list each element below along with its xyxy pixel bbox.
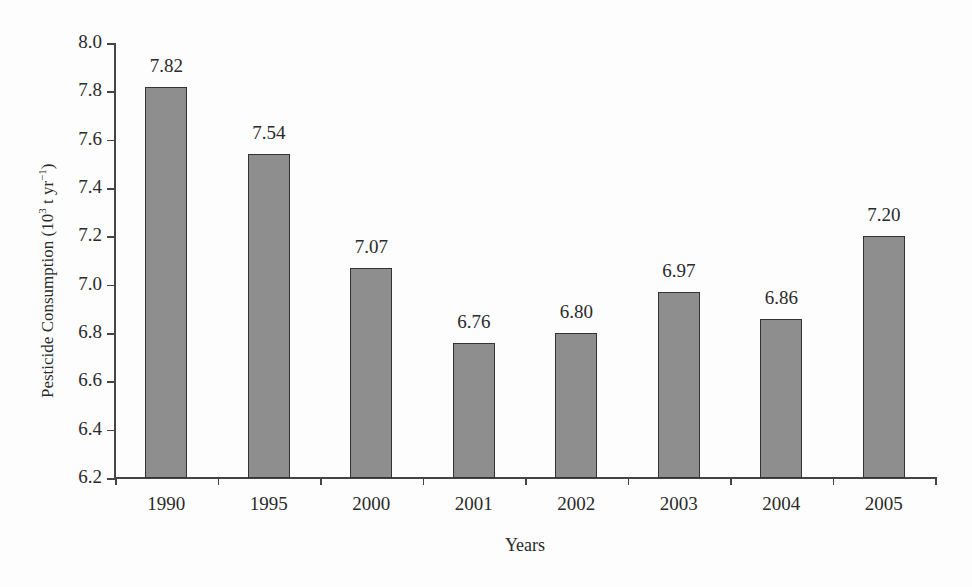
y-title-sup2: −1 xyxy=(36,169,48,181)
bar xyxy=(555,333,597,478)
bar-value-label: 6.86 xyxy=(741,287,821,309)
bar-value-label: 7.07 xyxy=(331,236,411,258)
y-title-main: Pesticide Consumption (10 xyxy=(38,214,57,398)
y-tick-mark xyxy=(107,43,115,45)
bar xyxy=(145,87,187,479)
bar-value-label: 7.54 xyxy=(229,122,309,144)
y-tick-mark xyxy=(107,91,115,93)
bar xyxy=(658,292,700,478)
x-tick-mark xyxy=(525,477,527,485)
bar xyxy=(350,268,392,478)
bar-value-label: 6.80 xyxy=(536,301,616,323)
bar-value-label: 7.82 xyxy=(126,55,206,77)
y-tick-label: 6.2 xyxy=(42,466,102,488)
x-tick-label: 1995 xyxy=(229,493,309,515)
x-tick-mark xyxy=(628,477,630,485)
y-tick-mark xyxy=(107,478,115,480)
y-tick-label: 7.8 xyxy=(42,79,102,101)
bar xyxy=(760,319,802,479)
bar xyxy=(863,236,905,478)
x-tick-label: 2000 xyxy=(331,493,411,515)
y-title-mid: t yr xyxy=(38,181,57,208)
x-tick-mark xyxy=(218,477,220,485)
x-tick-mark xyxy=(423,477,425,485)
x-tick-mark xyxy=(320,477,322,485)
y-title-sup1: 3 xyxy=(36,208,48,214)
y-tick-label: 6.4 xyxy=(42,418,102,440)
y-tick-mark xyxy=(107,236,115,238)
y-tick-mark xyxy=(107,381,115,383)
x-tick-label: 2003 xyxy=(639,493,719,515)
y-tick-mark xyxy=(107,285,115,287)
y-axis-title: Pesticide Consumption (103 t yr−1) xyxy=(36,164,58,398)
bar-value-label: 6.97 xyxy=(639,260,719,282)
bar-value-label: 7.20 xyxy=(844,204,924,226)
x-tick-label: 1990 xyxy=(126,493,206,515)
x-axis-title: Years xyxy=(465,535,585,556)
bar xyxy=(248,154,290,478)
y-tick-mark xyxy=(107,188,115,190)
y-axis-line xyxy=(114,43,116,479)
y-tick-mark xyxy=(107,140,115,142)
y-tick-label: 7.6 xyxy=(42,128,102,150)
y-tick-mark xyxy=(107,430,115,432)
x-tick-label: 2002 xyxy=(536,493,616,515)
y-title-end: ) xyxy=(38,164,57,170)
bar-chart: 6.26.46.66.87.07.27.47.67.88.0 7.8219907… xyxy=(0,0,972,587)
bar xyxy=(453,343,495,478)
y-tick-mark xyxy=(107,333,115,335)
x-tick-mark xyxy=(115,477,117,485)
x-tick-mark xyxy=(833,477,835,485)
x-tick-mark xyxy=(730,477,732,485)
x-tick-label: 2004 xyxy=(741,493,821,515)
x-tick-label: 2005 xyxy=(844,493,924,515)
y-tick-label: 8.0 xyxy=(42,31,102,53)
x-tick-label: 2001 xyxy=(434,493,514,515)
bar-value-label: 6.76 xyxy=(434,311,514,333)
x-tick-mark xyxy=(935,477,937,485)
